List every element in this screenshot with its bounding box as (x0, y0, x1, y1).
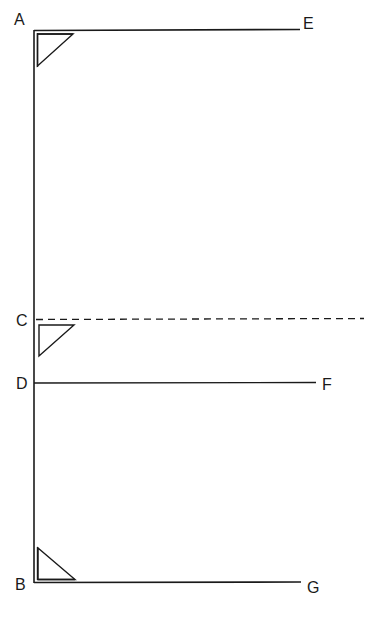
dashed-line-C (36, 319, 364, 320)
label-E: E (303, 15, 314, 32)
triangle-bottom (38, 548, 75, 580)
segment-DF (34, 383, 316, 384)
segment-AE (34, 30, 300, 31)
label-F: F (322, 376, 332, 393)
label-C: C (16, 312, 28, 329)
label-D: D (16, 375, 28, 392)
segment-BG (34, 582, 301, 583)
label-B: B (15, 576, 26, 593)
geometry-diagram: A E C D F B G (0, 0, 375, 619)
triangle-middle (39, 325, 74, 356)
triangle-top (38, 34, 74, 66)
label-A: A (14, 11, 25, 28)
label-G: G (307, 579, 319, 596)
